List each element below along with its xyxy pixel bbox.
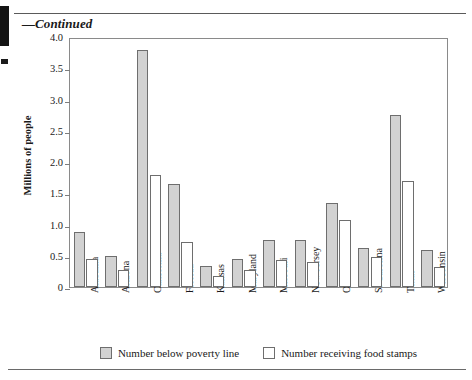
bar-food-stamps [276,260,288,287]
bar-food-stamps [150,175,162,288]
margin-artifact-block [0,6,9,46]
page-rule-top [14,13,466,14]
y-axis-tick-label: 1.0 [17,221,63,232]
y-axis-tick [65,102,70,103]
y-axis-tick [65,195,70,196]
y-axis-tick [65,227,70,228]
y-axis-tick-label: 2.5 [17,127,63,138]
bar-poverty [295,240,307,288]
y-axis-tick [65,289,70,290]
y-axis-tick-label: 4.0 [17,33,63,44]
bar-poverty [105,256,117,287]
y-axis-tick-label: 3.5 [17,64,63,75]
bar-poverty [74,232,86,287]
bar-poverty [200,266,212,287]
chart-plot-inner [70,39,447,287]
legend-swatch-poverty [100,347,112,359]
bar-poverty [168,184,180,287]
y-axis-tick-label: 1.5 [17,189,63,200]
page-rule-bottom [8,369,466,370]
bar-food-stamps [181,242,193,287]
bar-food-stamps [402,181,414,287]
chart-plot-area [69,38,448,288]
bar-poverty [263,240,275,287]
margin-artifact-tick [1,59,8,64]
legend-label: Number below poverty line [118,347,239,359]
y-axis-tick [65,258,70,259]
y-axis-tick-label: 3.0 [17,96,63,107]
bar-food-stamps [371,257,383,287]
y-axis-tick [65,70,70,71]
y-axis-tick [65,164,70,165]
legend-item: Number receiving food stamps [263,347,417,359]
y-axis-tick-label: 2.0 [17,158,63,169]
bar-food-stamps [213,276,225,287]
bar-food-stamps [339,220,351,288]
y-axis-tick-label: 0.5 [17,252,63,263]
bar-food-stamps [307,262,319,287]
bar-poverty [421,250,433,288]
legend-swatch-food-stamps [263,347,275,359]
bar-food-stamps [118,270,130,287]
bar-food-stamps [86,259,98,287]
continued-label: —Continued [22,16,92,32]
bar-poverty [232,259,244,287]
legend-item: Number below poverty line [100,347,239,359]
bar-poverty [326,203,338,287]
bar-poverty [137,50,149,288]
bar-poverty [390,115,402,288]
bar-food-stamps [244,270,256,288]
y-axis-tick-label: 0 [17,283,63,294]
bar-food-stamps [434,267,446,287]
legend-label: Number receiving food stamps [281,347,417,359]
chart-legend: Number below poverty lineNumber receivin… [69,344,448,362]
y-axis-tick [65,133,70,134]
bar-poverty [358,248,370,287]
